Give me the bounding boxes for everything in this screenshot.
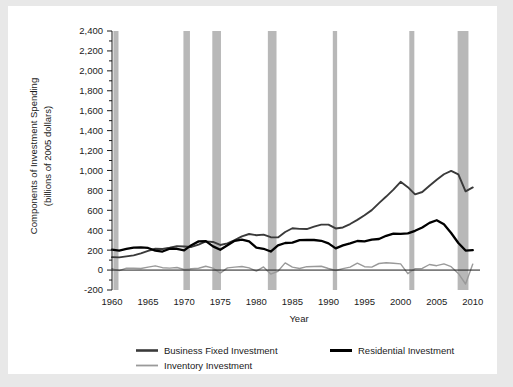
y-tick-label: 1,000 bbox=[79, 165, 103, 176]
y-tick-label: 400 bbox=[87, 225, 103, 236]
x-tick-label: 1965 bbox=[138, 296, 159, 307]
y-tick-label: 0 bbox=[98, 264, 103, 275]
y-tick-label: 1,600 bbox=[79, 105, 103, 116]
y-tick-label: 2,000 bbox=[79, 65, 103, 76]
investment-components-line-chart: -20002004006008001,0001,2001,4001,6001,8… bbox=[8, 6, 497, 374]
x-tick-label: 2000 bbox=[390, 296, 411, 307]
recession-band bbox=[212, 31, 221, 290]
x-tick-label: 2005 bbox=[426, 296, 447, 307]
x-tick-label: 1985 bbox=[282, 296, 303, 307]
x-axis-title: Year bbox=[289, 313, 308, 324]
series-line-inventory-investment bbox=[112, 263, 473, 284]
x-tick-labels: 1960196519701975198019851990199520002005… bbox=[101, 296, 483, 307]
series-line-business-fixed-investment bbox=[112, 171, 473, 257]
x-tick-label: 1995 bbox=[354, 296, 375, 307]
figure-card: -20002004006008001,0001,2001,4001,6001,8… bbox=[8, 6, 497, 374]
y-axis-title-line1: Components of Investment Spending bbox=[28, 78, 39, 234]
x-tick-label: 1980 bbox=[246, 296, 267, 307]
legend-label: Business Fixed Investment bbox=[164, 345, 278, 356]
y-tick-label: 1,800 bbox=[79, 85, 103, 96]
legend-label: Inventory Investment bbox=[164, 360, 253, 371]
y-tick-labels: -20002004006008001,0001,2001,4001,6001,8… bbox=[79, 25, 103, 295]
y-tick-label: 200 bbox=[87, 245, 103, 256]
y-tick-label: 800 bbox=[87, 185, 103, 196]
y-tick-label: -200 bbox=[84, 284, 103, 295]
y-tick-label: 2,200 bbox=[79, 45, 103, 56]
legend-label: Residential Investment bbox=[358, 345, 454, 356]
y-tick-label: 2,400 bbox=[79, 25, 103, 36]
y-axis-title-line2: (billions of 2005 dollars) bbox=[42, 106, 53, 206]
y-tick-label: 600 bbox=[87, 205, 103, 216]
series-line-residential-investment bbox=[112, 220, 473, 251]
legend: Business Fixed InvestmentResidential Inv… bbox=[136, 345, 454, 371]
plot-lines-group bbox=[112, 171, 473, 284]
x-tick-label: 1960 bbox=[101, 296, 122, 307]
y-tick-label: 1,400 bbox=[79, 125, 103, 136]
x-tick-label: 1975 bbox=[210, 296, 231, 307]
x-tick-label: 2010 bbox=[462, 296, 483, 307]
x-tick-label: 1970 bbox=[174, 296, 195, 307]
screenshot-page: -20002004006008001,0001,2001,4001,6001,8… bbox=[0, 0, 513, 387]
recession-band bbox=[333, 31, 337, 290]
y-tick-label: 1,200 bbox=[79, 145, 103, 156]
x-tick-label: 1990 bbox=[318, 296, 339, 307]
recession-band bbox=[409, 31, 414, 290]
